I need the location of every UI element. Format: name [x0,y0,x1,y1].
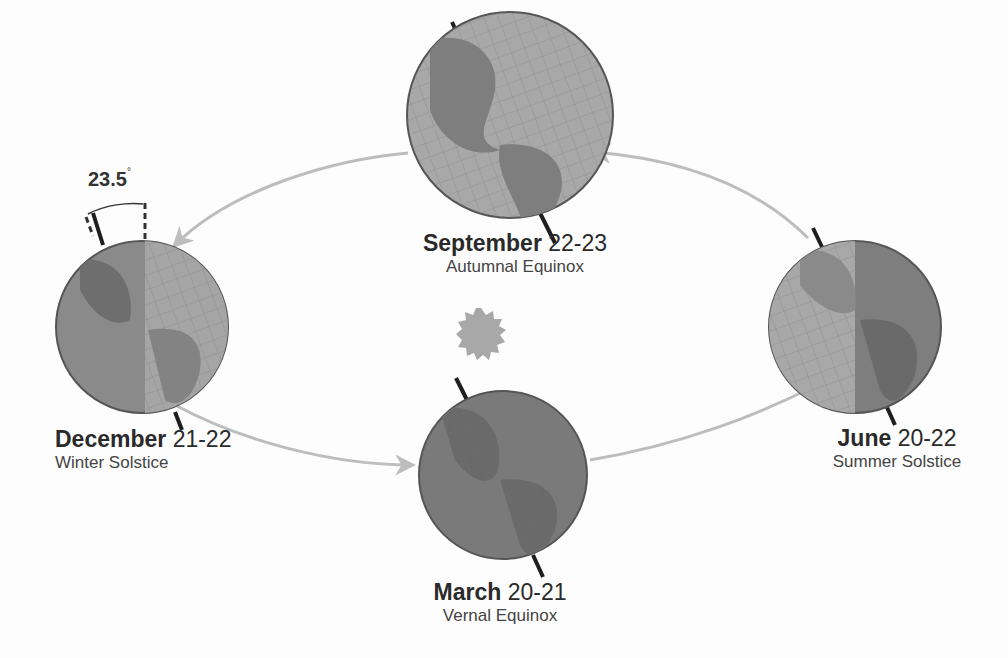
earth-december [56,203,245,430]
month: June [838,425,892,451]
label-september: September 22-23 Autumnal Equinox [405,232,625,275]
degree-symbol: ° [127,166,131,177]
days: 20-22 [898,425,957,451]
tilt-angle-label: 23.5° [88,168,131,191]
label-march: March 20-21 Vernal Equinox [415,581,585,624]
label-december: December 21-22 Winter Solstice [55,428,231,471]
month: September [423,230,542,256]
days: 20-21 [508,579,567,605]
event: Autumnal Equinox [405,258,625,275]
days: 21-22 [173,426,232,452]
event: Winter Solstice [55,454,231,471]
event: Summer Solstice [822,453,972,470]
sun-icon [456,308,506,360]
earth-march [410,378,600,577]
days: 22-23 [548,230,607,256]
seasons-diagram: 23.5° September 22-23 Autumnal Equinox J… [0,0,1008,658]
month: March [434,579,502,605]
tilt-value: 23.5 [88,168,127,190]
month: December [55,426,166,452]
earth-september [400,0,630,243]
orbit-diagram-svg [0,0,1008,658]
event: Vernal Equinox [415,607,585,624]
label-june: June 20-22 Summer Solstice [822,427,972,470]
